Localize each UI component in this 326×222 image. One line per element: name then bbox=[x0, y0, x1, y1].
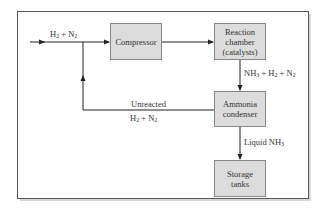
feed-label: H2 + N2 bbox=[50, 29, 77, 39]
compressor-label: Compressor bbox=[115, 37, 156, 47]
liquid-nh3-label: Liquid NH3 bbox=[244, 137, 284, 147]
reaction-chamber-box: Reaction chamber (catalysts) bbox=[214, 23, 266, 60]
compressor-box: Compressor bbox=[110, 23, 162, 60]
flow-lines bbox=[0, 0, 326, 222]
storage-tanks-label: Storage tanks bbox=[227, 169, 253, 189]
unreacted-label: Unreacted bbox=[131, 99, 166, 109]
nh3-mixture-label: NH3 + H2 + N2 bbox=[244, 68, 296, 78]
unreacted-gas-label: H2 + N2 bbox=[130, 113, 157, 123]
ammonia-condenser-box: Ammonia condenser bbox=[214, 91, 266, 127]
ammonia-condenser-label: Ammonia condenser bbox=[223, 99, 257, 119]
storage-tanks-box: Storage tanks bbox=[214, 160, 266, 197]
reaction-chamber-label: Reaction chamber (catalysts) bbox=[223, 27, 258, 57]
